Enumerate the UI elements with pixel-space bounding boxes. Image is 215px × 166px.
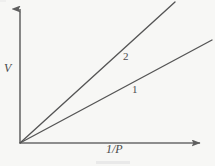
boyles-law-figure: V 1/P 2 1 [0,0,215,166]
axes-group [20,9,200,143]
curve-label-2: 2 [123,51,129,62]
curve-label-1: 1 [132,84,138,95]
x-axis-label: 1/P [106,143,123,155]
plot-lines-group [20,2,212,143]
y-axis-label: V [4,62,11,74]
